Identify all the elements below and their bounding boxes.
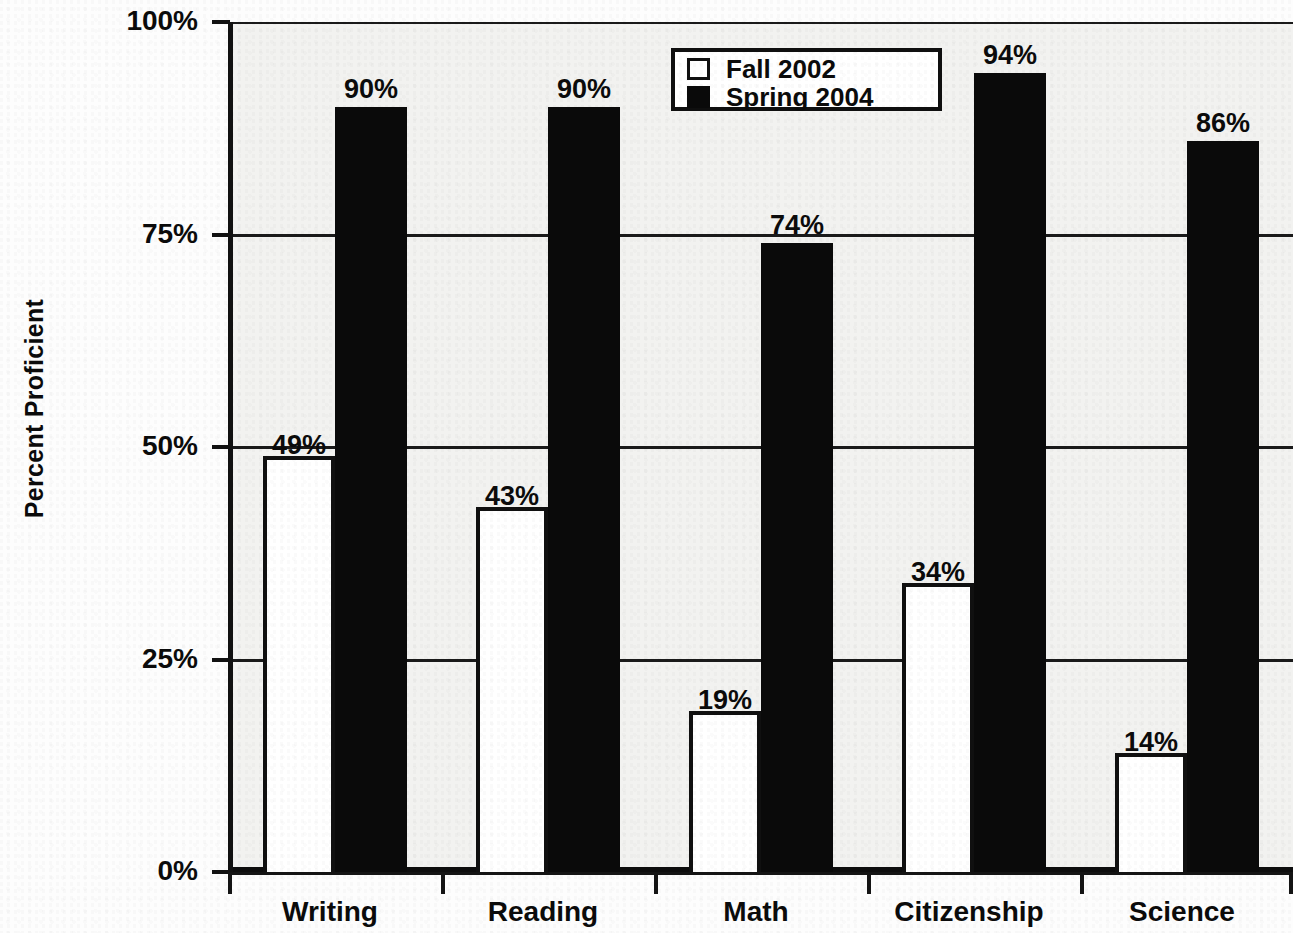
x-axis-line [228,872,1293,875]
legend-label: Spring 2004 [726,84,873,110]
bar-value-label: 90% [344,76,398,103]
x-axis-tick-mark [1289,872,1293,894]
bar-value-label: 74% [770,212,824,239]
legend-label: Fall 2002 [726,56,836,82]
filled-square-icon [687,86,710,108]
x-axis-label-science: Science [1129,898,1235,926]
y-axis-tick-mark [212,20,230,24]
y-axis-tick-label: 25% [8,645,198,673]
x-axis-label-writing: Writing [282,898,378,926]
y-axis-tick-mark [212,445,230,449]
bar-citizenship-spring-2004: 94% [974,73,1046,872]
y-axis-tick-label: 100% [8,7,198,35]
bar-writing-fall-2002: 49% [263,456,335,873]
bar-value-label: 49% [272,432,326,459]
y-axis-tick-mark [212,658,230,662]
legend-entry-spring-2004: Spring 2004 [687,83,938,110]
x-axis-tick-mark [228,872,232,894]
x-axis-tick-mark [1080,872,1084,894]
bar-value-label: 14% [1124,729,1178,756]
y-axis-tick-label: 75% [8,220,198,248]
bar-value-label: 43% [485,483,539,510]
bar-value-label: 19% [698,687,752,714]
x-axis-label-math: Math [723,898,788,926]
bar-reading-fall-2002: 43% [476,507,548,873]
y-axis-tick-label: 0% [8,857,198,885]
bar-math-spring-2004: 74% [761,243,833,872]
x-axis-tick-mark [654,872,658,894]
y-axis-tick-mark [212,233,230,237]
x-axis-label-reading: Reading [488,898,598,926]
bar-math-fall-2002: 19% [689,711,761,873]
plot-inner: 49%90%43%90%19%74%34%94%14%86% [233,22,1293,872]
bar-science-spring-2004: 86% [1187,141,1259,872]
bar-value-label: 94% [983,42,1037,69]
bar-value-label: 90% [557,76,611,103]
bar-citizenship-fall-2002: 34% [902,583,974,872]
bar-value-label: 34% [911,559,965,586]
x-axis-tick-mark [867,872,871,894]
bar-reading-spring-2004: 90% [548,107,620,872]
gridline [233,22,1293,24]
x-axis-label-citizenship: Citizenship [894,898,1043,926]
chart-legend: Fall 2002 Spring 2004 [671,48,942,111]
x-axis-tick-mark [441,872,445,894]
bar-writing-spring-2004: 90% [335,107,407,872]
hollow-square-icon [687,58,710,80]
y-axis-title: Percent Proficient [20,249,49,569]
legend-entry-fall-2002: Fall 2002 [687,55,938,82]
chart-screenshot: Percent Proficient 49%90%43%90%19%74%34%… [0,0,1293,933]
y-axis-tick-label: 50% [8,432,198,460]
bar-science-fall-2002: 14% [1115,753,1187,872]
bar-value-label: 86% [1196,110,1250,137]
plot-area: 49%90%43%90%19%74%34%94%14%86% [228,22,1293,872]
